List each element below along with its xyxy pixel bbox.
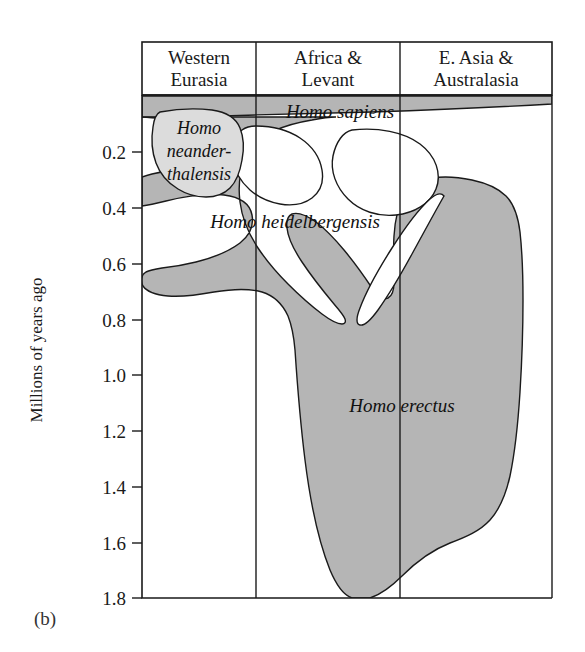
y-axis-title: Millions of years ago bbox=[27, 278, 46, 423]
species-label-homo-neanderthalensis-line3: thalensis bbox=[167, 164, 231, 184]
species-label-homo-sapiens: Homo sapiens bbox=[285, 101, 394, 122]
species-label-homo-erectus: Homo erectus bbox=[348, 395, 454, 416]
species-label-homo-neanderthalensis-line1: Homo bbox=[176, 118, 221, 138]
species-label-homo-neanderthalensis-line2: neander- bbox=[167, 141, 232, 161]
column-header-e-asia-australasia-line2: Australasia bbox=[433, 69, 519, 90]
column-header-western-eurasia-line1: Western bbox=[168, 47, 230, 68]
column-header-western-eurasia-line2: Eurasia bbox=[171, 69, 229, 90]
y-tick-label-6: 1.4 bbox=[102, 477, 126, 498]
figure-caption: (b) bbox=[34, 608, 56, 630]
column-header-africa-levant-line1: Africa & bbox=[294, 47, 362, 68]
y-tick-label-3: 0.8 bbox=[102, 310, 126, 331]
column-header-africa-levant-line2: Levant bbox=[302, 69, 355, 90]
species-label-homo-heidelbergensis: Homo heidelbergensis bbox=[209, 211, 380, 232]
y-tick-label-5: 1.2 bbox=[102, 421, 126, 442]
y-tick-label-8: 1.8 bbox=[102, 588, 126, 609]
hominin-range-chart: Western Eurasia Africa & Levant E. Asia … bbox=[0, 0, 585, 652]
y-tick-label-2: 0.6 bbox=[102, 254, 126, 275]
y-tick-label-1: 0.4 bbox=[102, 198, 126, 219]
y-tick-label-0: 0.2 bbox=[102, 142, 126, 163]
y-tick-label-4: 1.0 bbox=[102, 365, 126, 386]
y-tick-label-7: 1.6 bbox=[102, 533, 126, 554]
column-header-row: Western Eurasia Africa & Levant E. Asia … bbox=[142, 42, 552, 95]
column-header-e-asia-australasia-line1: E. Asia & bbox=[439, 47, 514, 68]
